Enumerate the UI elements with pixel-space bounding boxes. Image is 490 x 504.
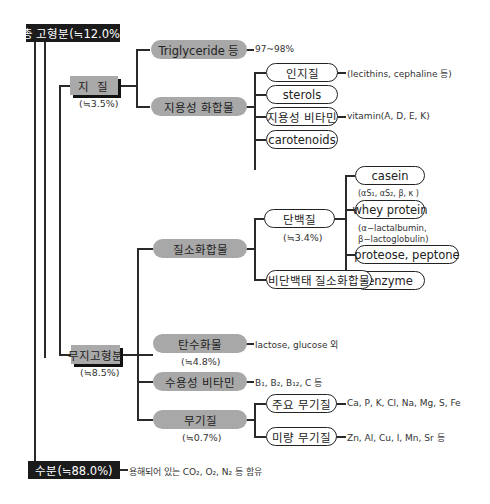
protein-pct: (≒3.4%) [283, 232, 323, 243]
connector-protein [254, 218, 264, 220]
carbohydrate-pct: (≒4.8%) [181, 356, 221, 367]
connector-casein [345, 175, 355, 177]
connector-trace-note [336, 436, 346, 438]
trunk-water [34, 40, 36, 470]
connector-nitro-out [246, 248, 254, 250]
phospholipid-note: (lecithins, cephaline 등) [347, 67, 452, 80]
connector-major [254, 403, 266, 405]
connector-snf-v [137, 248, 139, 420]
connector-lipid-v [136, 49, 138, 107]
fat-soluble-compounds-node: 지용성 화합물 [151, 97, 247, 116]
lipid-node: 지 질 [70, 76, 118, 95]
connector-trace [254, 436, 266, 438]
water-soluble-vitamin-note: B₁, B₂, B₁₂, C 등 [255, 376, 322, 389]
triglyceride-node: Triglyceride 등 [151, 40, 247, 59]
connector-major-note [336, 403, 346, 405]
trace-minerals-note: Zn, Al, Cu, I, Mn, Sr 등 [347, 431, 445, 444]
lipid-pct: (≒3.5%) [79, 98, 119, 109]
proteose-peptone-node: proteose, peptone [355, 245, 459, 264]
phospholipid-node: 인지질 [266, 63, 338, 82]
connector-min-v [254, 403, 256, 437]
connector-nitro-v [254, 218, 256, 280]
carbohydrate-node: 탄수화물 [153, 334, 247, 353]
fat-soluble-vitamin-note: vitamin(A, D, E, K) [347, 111, 430, 121]
water-soluble-vitamin-node: 수용성 비타민 [153, 372, 247, 391]
sterols-node: sterols [266, 85, 338, 104]
trunk-solids [44, 40, 46, 358]
trace-minerals-node: 미량 무기질 [266, 427, 337, 446]
casein-note: (αS₁, αS₂, β, κ ) [358, 189, 419, 198]
connector-min [137, 419, 153, 421]
total-solids-node: 총 고형분(≒12.0%) [26, 24, 120, 42]
connector-lipid-out [120, 85, 137, 87]
carotenoids-node: carotenoids [266, 130, 338, 149]
minerals-pct: (≒0.7%) [182, 432, 222, 443]
snf-pct: (≒8.5%) [80, 367, 120, 378]
snf-node: 무지고형분 [71, 345, 120, 364]
triglyceride-note: 97~98% [255, 44, 294, 54]
connector-fatsol-v [254, 72, 256, 170]
whey-note-2: β−lactoglobulin) [358, 234, 429, 244]
protein-node: 단백질 [264, 209, 335, 228]
connector-protein-v [345, 175, 347, 255]
non-protein-nitrogen-node: 비단백태 질소화합물 [266, 270, 372, 289]
casein-node: casein [355, 166, 425, 185]
connector-c1 [254, 72, 266, 74]
carbohydrate-note: lactose, glucose 외 [255, 338, 338, 351]
connector-lipid-h [59, 85, 70, 87]
major-minerals-note: Ca, P, K, Cl, Na, Mg, S, Fe [347, 398, 461, 408]
major-minerals-node: 주요 무기질 [266, 394, 337, 413]
nitrogen-compounds-node: 질소화합물 [153, 239, 247, 258]
connector-carb-note [246, 343, 254, 345]
connector-wsv [137, 381, 153, 383]
connector-nitro [137, 248, 153, 250]
connector-tri [136, 49, 150, 51]
connector-c3 [254, 116, 266, 118]
connector-water-note [120, 469, 128, 471]
connector-tri-note [246, 49, 254, 51]
fat-soluble-vitamin-node: 지용성 비타민 [266, 107, 338, 126]
connector-npn [254, 279, 266, 281]
connector-fatsol [136, 106, 150, 108]
connector-c4-end [254, 139, 256, 140]
connector-lipid [59, 85, 61, 355]
connector-wsv-note [246, 381, 254, 383]
connector-fatsol-out [246, 106, 254, 108]
connector-min-out [246, 419, 254, 421]
water-node: 수분(≒88.0%) [28, 461, 120, 479]
connector-c2 [254, 94, 266, 96]
minerals-node: 무기질 [153, 410, 247, 429]
whey-note-1: (α−lactalbumin, [358, 223, 427, 233]
connector-c4 [254, 139, 266, 141]
whey-protein-node: whey protein [355, 200, 425, 219]
water-note: 용해되어 있는 CO₂, O₂, N₂ 등 함유 [129, 465, 262, 478]
